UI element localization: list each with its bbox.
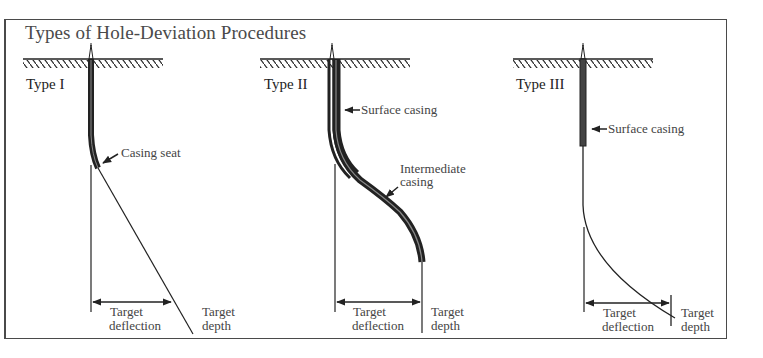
deviated-hole-line (583, 146, 675, 318)
derrick-icon (330, 43, 334, 59)
derrick-icon (581, 43, 585, 59)
derrick-icon (89, 43, 93, 59)
target-depth-label-2: depth (681, 319, 710, 334)
target-depth-label-2: depth (202, 318, 231, 333)
target-deflection-label: Target (110, 304, 143, 319)
arrow-left-icon (386, 187, 398, 197)
type-2-label: Type II (264, 76, 308, 92)
deviation-diagram: Type I Casing seat Target deflection Tar… (0, 0, 763, 358)
type-1-label: Type I (26, 76, 65, 92)
target-deflection-label: Target (603, 305, 636, 320)
target-deflection-label: Target (353, 304, 386, 319)
surface-casing-label: Surface casing (608, 121, 685, 136)
target-deflection-label-2: deflection (602, 319, 654, 334)
arrow-left-icon (103, 154, 118, 163)
target-depth-label: Target (681, 305, 714, 320)
intermediate-casing-label-2: casing (400, 174, 434, 189)
target-depth-label-2: depth (431, 318, 460, 333)
casing-seat-label: Casing seat (121, 145, 181, 160)
surface-casing-label: Surface casing (361, 102, 438, 117)
target-deflection-label-2: deflection (352, 318, 404, 333)
casing-pipe (91, 59, 98, 168)
target-depth-label: Target (202, 304, 235, 319)
target-depth-label: Target (431, 304, 464, 319)
surface-casing-pipe (580, 59, 586, 146)
type-3-label: Type III (516, 76, 565, 92)
target-deflection-label-2: deflection (109, 318, 161, 333)
